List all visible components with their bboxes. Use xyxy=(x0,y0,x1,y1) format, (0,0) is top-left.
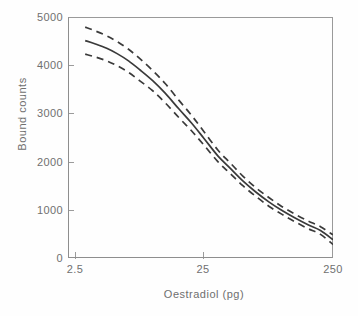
x-tick-label: 2.5 xyxy=(67,263,84,275)
y-axis-title: Bound counts xyxy=(16,54,28,174)
figure: 5000 4000 3000 2000 1000 0 2.5 25 250 Oe… xyxy=(0,0,358,316)
fitted-curve xyxy=(85,41,333,240)
x-tick-label: 250 xyxy=(323,263,343,275)
curve-plot-area xyxy=(68,17,333,258)
confidence-band-upper xyxy=(85,27,333,235)
y-tick-label: 5000 xyxy=(37,12,63,23)
y-tick-label: 2000 xyxy=(37,157,63,168)
y-tick-label: 3000 xyxy=(37,108,63,119)
confidence-band-lower xyxy=(85,54,333,244)
y-tick-label: 1000 xyxy=(37,205,63,216)
x-tick-label: 25 xyxy=(196,263,209,275)
x-axis-title: Oestradiol (pg) xyxy=(0,288,358,300)
y-tick-label: 0 xyxy=(56,253,63,264)
y-tick-label: 4000 xyxy=(37,60,63,71)
